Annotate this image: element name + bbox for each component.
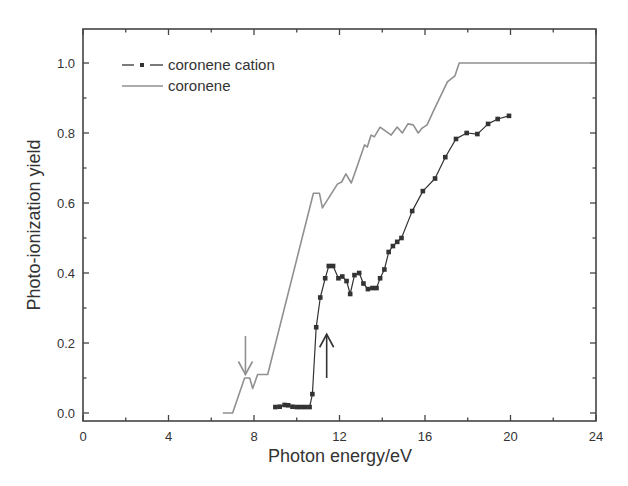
legend: coronene cation coronene xyxy=(122,56,275,94)
axis-tick-labels: 048121620240.00.20.40.60.81.0 xyxy=(57,56,603,445)
series-coronene-cation xyxy=(273,114,511,410)
data-point xyxy=(294,405,299,410)
data-point xyxy=(307,405,312,410)
x-tick-label: 20 xyxy=(503,429,517,444)
data-point xyxy=(443,155,448,160)
plot-series xyxy=(223,63,596,413)
data-point xyxy=(395,240,400,245)
legend-item-cation: coronene cation xyxy=(122,56,275,73)
data-point xyxy=(366,287,371,292)
data-point xyxy=(323,276,328,281)
data-point xyxy=(386,250,391,255)
data-point xyxy=(421,189,426,194)
data-point xyxy=(340,274,345,279)
y-axis-label: Photo-ionization yield xyxy=(24,139,44,310)
legend-label-cation: coronene cation xyxy=(168,56,275,73)
data-point xyxy=(348,292,353,297)
data-point xyxy=(318,295,323,300)
x-tick-label: 0 xyxy=(79,429,86,444)
data-point xyxy=(378,276,383,281)
data-point xyxy=(454,137,459,142)
annotations xyxy=(238,334,333,378)
data-point xyxy=(327,264,332,269)
data-point xyxy=(475,132,480,137)
data-point xyxy=(374,286,379,291)
x-tick-label: 24 xyxy=(589,429,603,444)
data-point xyxy=(290,404,295,409)
data-point xyxy=(299,405,304,410)
data-point xyxy=(314,325,319,330)
y-tick-label: 0.8 xyxy=(57,126,75,141)
arrow-up-icon xyxy=(320,334,334,378)
data-point xyxy=(382,267,387,272)
y-tick-label: 0.0 xyxy=(57,406,75,421)
plot-frame xyxy=(83,29,596,421)
data-point xyxy=(352,273,357,278)
data-point xyxy=(399,236,404,241)
data-point xyxy=(486,122,491,127)
data-point xyxy=(391,244,396,249)
data-point xyxy=(303,405,308,410)
x-axis-label: Photon energy/eV xyxy=(268,446,412,466)
y-tick-label: 1.0 xyxy=(57,56,75,71)
arrow-down-icon xyxy=(238,336,252,375)
data-point xyxy=(361,281,366,286)
data-point xyxy=(410,209,415,214)
data-point xyxy=(433,176,438,181)
data-point xyxy=(331,264,336,269)
data-point xyxy=(273,405,278,410)
data-point xyxy=(507,114,512,119)
data-point xyxy=(495,117,500,122)
x-tick-label: 12 xyxy=(332,429,346,444)
legend-item-coronene: coronene xyxy=(122,77,231,94)
data-point xyxy=(370,286,375,291)
y-tick-label: 0.4 xyxy=(57,266,75,281)
data-point xyxy=(344,279,349,284)
x-tick-label: 8 xyxy=(250,429,257,444)
data-point xyxy=(277,404,282,409)
data-point xyxy=(464,131,469,136)
chart: 048121620240.00.20.40.60.81.0 coronene c… xyxy=(0,0,628,486)
data-point xyxy=(286,403,291,408)
series-coronene xyxy=(223,63,596,413)
x-tick-label: 16 xyxy=(418,429,432,444)
legend-label-coronene: coronene xyxy=(168,77,231,94)
y-tick-label: 0.2 xyxy=(57,336,75,351)
data-point xyxy=(310,392,315,397)
y-tick-label: 0.6 xyxy=(57,196,75,211)
x-tick-label: 4 xyxy=(165,429,172,444)
data-point xyxy=(357,271,362,276)
axis-ticks xyxy=(83,29,596,421)
